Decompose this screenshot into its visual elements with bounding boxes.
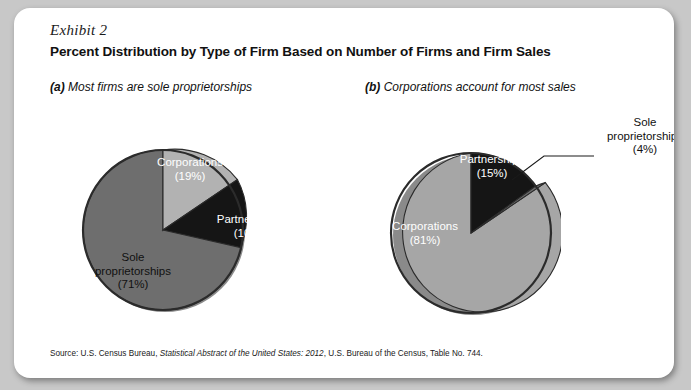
source-note: Source: U.S. Census Bureau, Statistical … bbox=[50, 349, 483, 358]
pie-a-svg bbox=[73, 140, 253, 320]
pie-chart-b bbox=[381, 143, 561, 323]
panel-b-tag: (b) bbox=[365, 80, 380, 94]
panel-b-caption-text: Corporations account for most sales bbox=[384, 80, 576, 94]
pie-b-label-sole-name-2: proprietorships bbox=[592, 130, 674, 144]
page-title: Percent Distribution by Type of Firm Bas… bbox=[50, 44, 551, 59]
pie-b-label-sole: Sole proprietorships (4%) bbox=[592, 116, 674, 157]
pie-b-label-sole-pct: (4%) bbox=[592, 143, 674, 157]
source-suffix: , U.S. Bureau of the Census, Table No. 7… bbox=[324, 349, 483, 358]
exhibit-card: Exhibit 2 Percent Distribution by Type o… bbox=[14, 8, 674, 378]
panel-b-caption: (b) Corporations account for most sales bbox=[365, 80, 576, 94]
source-prefix: Source: U.S. Census Bureau, bbox=[50, 349, 160, 358]
source-italic-title: Statistical Abstract of the United State… bbox=[160, 349, 324, 358]
pie-b-svg bbox=[381, 143, 561, 323]
exhibit-label: Exhibit 2 bbox=[50, 22, 107, 39]
pie-b-label-sole-name-1: Sole bbox=[592, 116, 674, 130]
panel-a-caption-text: Most firms are sole proprietorships bbox=[68, 80, 252, 94]
panel-a-tag: (a) bbox=[50, 80, 65, 94]
panel-a-caption: (a) Most firms are sole proprietorships bbox=[50, 80, 252, 94]
pie-chart-a bbox=[73, 140, 253, 320]
